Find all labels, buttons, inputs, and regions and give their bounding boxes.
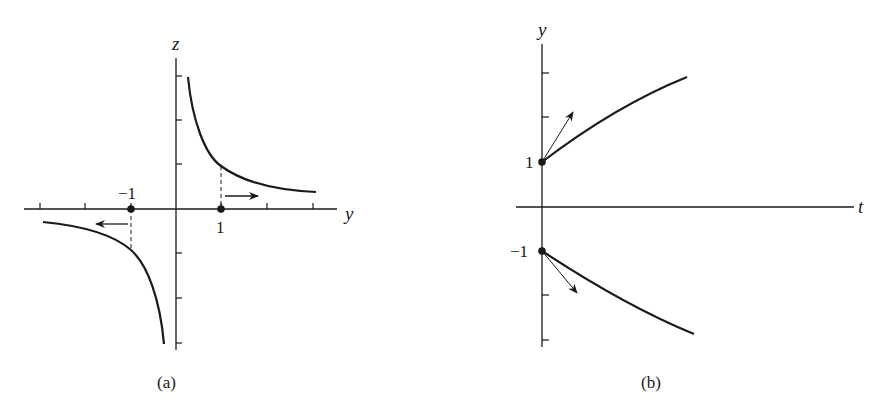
- point-neg-one: [127, 205, 135, 213]
- tangent-arrow-upper-icon: [542, 112, 573, 162]
- axis-label-y: y: [343, 203, 354, 224]
- tick-label-neg-one-b: −1: [510, 242, 528, 261]
- panel-b: [516, 44, 854, 347]
- axis-label-z: z: [171, 33, 180, 54]
- curve-negative-branch: [43, 222, 164, 344]
- panel-a: [24, 58, 337, 350]
- curve-lower-solution: [542, 251, 694, 334]
- tick-label-one: 1: [216, 218, 225, 237]
- initial-point-neg-one: [538, 247, 546, 255]
- tick-label-neg-one: −1: [118, 184, 136, 203]
- point-pos-one: [217, 205, 225, 213]
- curve-positive-branch: [188, 77, 316, 192]
- curve-upper-solution: [542, 77, 687, 162]
- caption-b: (b): [641, 373, 661, 392]
- initial-point-one: [538, 158, 546, 166]
- axis-label-y-b: y: [536, 19, 547, 40]
- axis-label-t: t: [858, 196, 864, 217]
- caption-a: (a): [157, 373, 176, 392]
- tick-label-one-b: 1: [525, 153, 534, 172]
- tangent-arrow-lower-icon: [542, 251, 577, 293]
- figure-canvas: z y −1 1 (a) y t 1 −1 (b): [0, 0, 884, 417]
